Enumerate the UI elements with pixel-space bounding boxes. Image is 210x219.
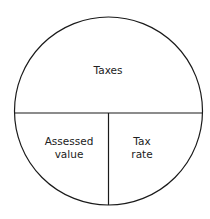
assessed-value-line2: value: [38, 148, 100, 161]
tax-rate-line2: rate: [120, 148, 164, 161]
formula-circle-diagram: [0, 0, 210, 219]
assessed-value-label: Assessed value: [38, 135, 100, 161]
tax-rate-label: Tax rate: [120, 135, 164, 161]
assessed-value-line1: Assessed: [38, 135, 100, 148]
taxes-label: Taxes: [78, 64, 138, 77]
tax-rate-line1: Tax: [120, 135, 164, 148]
